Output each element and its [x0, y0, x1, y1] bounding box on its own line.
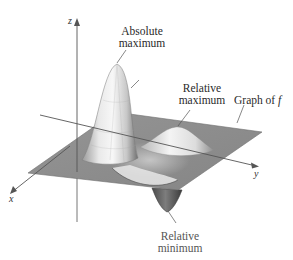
absolute-maximum-peak: [82, 64, 138, 164]
absolute-max-line1: Absolute: [112, 25, 172, 37]
z-axis-label: z: [68, 15, 72, 26]
relative-max-line1: Relative: [172, 82, 232, 94]
relative-minimum-well: [152, 188, 182, 212]
relative-min-line2: minimum: [150, 242, 210, 254]
relative-min-line1: Relative: [150, 230, 210, 242]
graph-of-text: Graph of: [234, 94, 278, 106]
leader-graph-of-f: [237, 105, 244, 123]
z-axis-arrow-icon: [74, 18, 80, 26]
relative-min-label: Relative minimum: [150, 230, 210, 254]
extrema-surface-diagram: z x y Absolute maximum Relative maximum …: [0, 0, 293, 260]
absolute-max-line2: maximum: [112, 37, 172, 49]
relative-max-label: Relative maximum: [172, 82, 232, 106]
x-axis-label: x: [9, 193, 13, 204]
function-name: f: [278, 94, 281, 106]
leader-relative-min: [168, 211, 176, 223]
leader-absolute-max-2: [131, 80, 139, 88]
absolute-max-label: Absolute maximum: [112, 25, 172, 49]
graph-of-f-label: Graph of f: [234, 94, 281, 106]
y-axis-label: y: [254, 168, 258, 179]
relative-max-line2: maximum: [172, 94, 232, 106]
leader-absolute-max: [117, 50, 126, 63]
